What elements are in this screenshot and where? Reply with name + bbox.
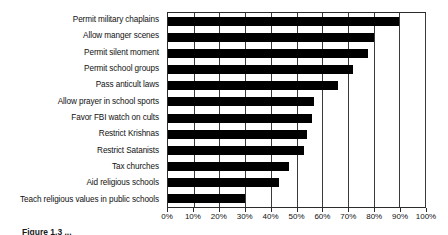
category-label: Allow manger scenes [0,28,163,44]
axis-tick-label: 60% [314,213,330,221]
bar [168,130,307,139]
axis-tick-label: 40% [263,213,279,221]
bar [168,146,304,155]
axis-tick-label: 20% [211,213,227,221]
bar [168,178,279,187]
bar [168,17,399,26]
bar-series [168,13,425,207]
category-label: Permit military chaplains [0,12,163,28]
bar-row [168,159,425,175]
axis-tick-label: 90% [392,213,408,221]
bar [168,194,245,203]
figure-container: Permit military chaplainsAllow manger sc… [0,0,448,235]
bar-row [168,78,425,94]
category-label: Permit silent moment [0,45,163,61]
category-label: Allow prayer in school sports [0,94,163,110]
axis-tick-label: 0% [161,213,173,221]
category-label: Favor FBI watch on cults [0,110,163,126]
category-label: Tax churches [0,159,163,175]
bar-row [168,142,425,158]
bar-row [168,29,425,45]
category-label: Pass anticult laws [0,77,163,93]
category-label: Permit school groups [0,61,163,77]
category-label: Restrict Satanists [0,143,163,159]
axis-tick-label: 30% [237,213,253,221]
category-axis-labels: Permit military chaplainsAllow manger sc… [0,12,163,208]
bar-row [168,94,425,110]
gridline [425,13,426,207]
axis-tick-label: 100% [416,213,436,221]
bar [168,97,314,106]
bar [168,65,353,74]
category-label: Teach religious values in public schools [0,192,163,208]
axis-tick-label: 10% [185,213,201,221]
bar-row [168,62,425,78]
bar [168,114,312,123]
axis-tick-label: 50% [288,213,304,221]
bar [168,33,374,42]
bar-row [168,191,425,207]
bar-row [168,175,425,191]
plot-area [167,12,426,208]
bar [168,162,289,171]
bar-row [168,13,425,29]
bar-row [168,110,425,126]
axis-tick-label: 70% [340,213,356,221]
bar-row [168,45,425,61]
bar [168,81,338,90]
axis-tick-label: 80% [366,213,382,221]
bar-chart: Permit military chaplainsAllow manger sc… [0,0,448,212]
category-label: Aid religious schools [0,175,163,191]
bar-row [168,126,425,142]
category-label: Restrict Krishnas [0,126,163,142]
figure-caption: Figure 1.3 ... [22,227,442,235]
bar [168,49,368,58]
